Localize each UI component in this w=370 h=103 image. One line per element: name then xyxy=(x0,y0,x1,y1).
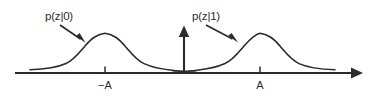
x-tick-minus-a: −A xyxy=(98,67,112,92)
conditional-density-figure: −A A p(z|0) p(z|1) xyxy=(0,0,370,103)
curve-p-z-given-0 xyxy=(30,33,196,72)
label-p-z-given-0: p(z|0) xyxy=(45,10,73,22)
y-axis xyxy=(179,26,189,74)
x-tick-label-a: A xyxy=(256,79,264,91)
x-tick-label-minus-a: −A xyxy=(98,79,112,91)
x-axis-arrowhead xyxy=(351,68,363,79)
label-p-z-given-1: p(z|1) xyxy=(192,10,220,22)
annotation-p-z-given-0: p(z|0) xyxy=(45,10,86,43)
curve-p-z-given-1 xyxy=(173,33,335,72)
y-axis-arrowhead xyxy=(179,26,189,38)
x-axis xyxy=(15,68,363,79)
annotation-p-z-given-1: p(z|1) xyxy=(192,10,238,43)
x-tick-a: A xyxy=(256,67,264,92)
